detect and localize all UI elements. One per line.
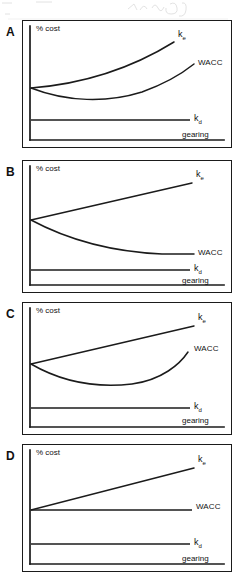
panel-b-y-axis-label: % cost (36, 164, 60, 173)
panel-letter-d: D (6, 450, 20, 462)
panel-b-line-ke (31, 183, 192, 220)
panel-c-label-wacc: WACC (194, 344, 219, 353)
panel-a-curve-ke (31, 42, 174, 88)
panel-a-label-kd: kd (194, 114, 202, 125)
panel-letter-c: C (6, 308, 20, 320)
panel-d-x-axis-label: gearing (182, 554, 209, 563)
panel-a-curve-wacc (31, 64, 194, 99)
panel-a: % cost ke WACC kd gearing (22, 20, 232, 148)
panel-a-plot (22, 20, 232, 148)
panel-d-y-axis-label: % cost (36, 448, 60, 457)
panel-c-x-axis-label: gearing (182, 416, 209, 425)
panel-c-curve-wacc (31, 352, 188, 385)
panel-b: % cost ke WACC kd gearing (22, 160, 232, 293)
panel-c-label-ke: ke (198, 313, 206, 324)
panel-c-label-kd: kd (194, 402, 202, 413)
panel-b-x-axis-label: gearing (182, 276, 209, 285)
panel-letter-a: A (6, 26, 20, 38)
panel-b-label-ke: ke (196, 170, 204, 181)
panel-d-line-ke (31, 468, 194, 510)
panel-b-label-kd: kd (194, 264, 202, 275)
panel-a-label-wacc: WACC (198, 58, 223, 67)
panel-d-label-kd: kd (194, 538, 202, 549)
panel-letter-b: B (6, 166, 20, 178)
panel-d-label-ke: ke (198, 455, 206, 466)
panel-a-x-axis-label: gearing (182, 130, 209, 139)
panel-a-label-ke: ke (178, 30, 186, 41)
panel-b-curve-wacc (31, 220, 194, 254)
panel-c-line-ke (31, 326, 194, 364)
panel-c-y-axis-label: % cost (36, 306, 60, 315)
panel-d: % cost ke WACC kd gearing (22, 444, 232, 572)
figure-panel-stack: A % cost ke WACC kd gearing B (0, 0, 236, 576)
panel-d-label-wacc: WACC (196, 502, 221, 511)
panel-b-label-wacc: WACC (198, 248, 223, 257)
panel-a-y-axis-label: % cost (36, 24, 60, 33)
panel-c: % cost ke WACC kd gearing (22, 302, 232, 435)
